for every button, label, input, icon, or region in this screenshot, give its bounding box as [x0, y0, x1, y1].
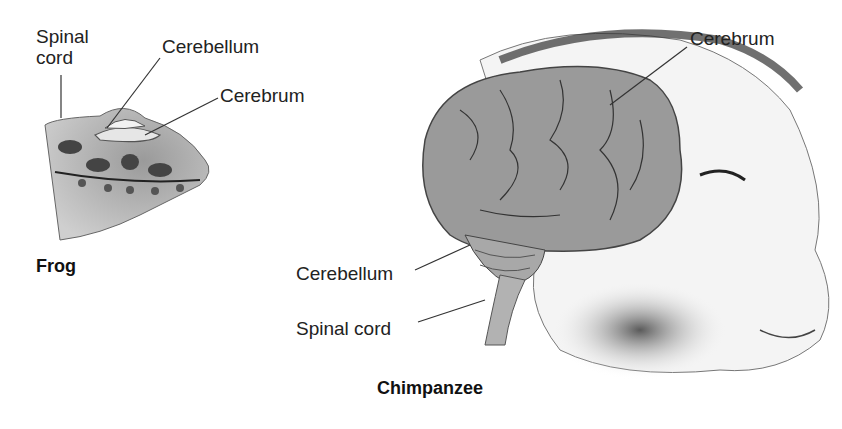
frog-title: Frog — [36, 256, 76, 277]
illustration — [0, 0, 842, 429]
chimpanzee-title: Chimpanzee — [377, 378, 483, 399]
frog-head — [45, 108, 209, 240]
chimpanzee-cerebrum-label: Cerebrum — [690, 28, 774, 49]
label-line: cord — [36, 47, 89, 68]
chimpanzee-cerebellum-label: Cerebellum — [296, 263, 393, 284]
frog-cerebrum-label: Cerebrum — [220, 85, 304, 106]
chimpanzee-spinal-cord-label: Spinal cord — [296, 318, 391, 339]
frog-spinal-cord-label: Spinal cord — [36, 26, 89, 68]
frog-cerebellum-label: Cerebellum — [162, 36, 259, 57]
label-line: Spinal — [36, 26, 89, 47]
